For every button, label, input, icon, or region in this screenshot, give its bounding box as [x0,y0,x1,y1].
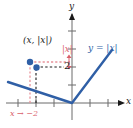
moving-point [27,59,33,65]
figure-canvas: y x (x, |x|) |x| 2 y = |x| x → −2 [0,0,133,128]
curve-equation-label: y = |x| [88,44,118,53]
y-axis-label: y [69,2,74,11]
limit-point [33,64,39,70]
approach-label: x → −2 [10,110,38,118]
y-axis-arrowhead [69,13,75,20]
limit-value-label: 2 [64,61,70,71]
x-axis-label: x [126,97,131,106]
x-axis-arrowhead [118,100,125,106]
abs-value-height-label: |x| [62,45,73,54]
abs-value-curve [8,50,112,103]
moving-point-label: (x, |x|) [23,36,52,45]
